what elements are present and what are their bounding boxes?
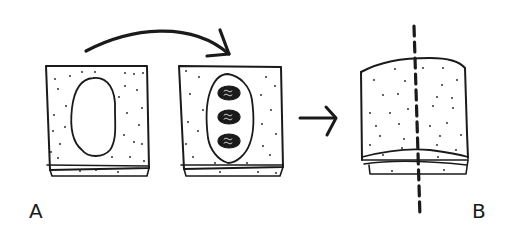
dashed-cut-line bbox=[414, 26, 420, 217]
label-b: B bbox=[472, 199, 486, 223]
right-arrow-icon bbox=[300, 107, 336, 135]
block-filled-cavity bbox=[179, 66, 283, 176]
block-empty-cavity bbox=[46, 66, 149, 176]
diagram-canvas bbox=[0, 0, 515, 243]
label-a: A bbox=[29, 199, 43, 223]
curved-arrow-icon bbox=[86, 30, 229, 56]
